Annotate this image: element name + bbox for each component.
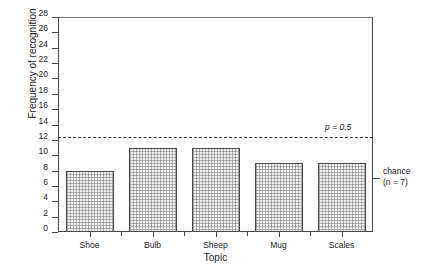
y-tick-mark — [52, 109, 58, 110]
x-tick-mark — [216, 232, 217, 237]
y-tick-label: 6 — [8, 178, 48, 187]
y-tick-label: 10 — [8, 147, 48, 156]
y-tick-mark — [52, 17, 58, 18]
y-tick-label: 22 — [8, 55, 48, 64]
x-tick-label: Bulb — [121, 240, 184, 250]
bar — [66, 171, 114, 232]
bar — [192, 148, 240, 232]
y-tick-label: 28 — [8, 9, 48, 18]
y-tick-label: 4 — [8, 193, 48, 202]
y-tick-mark — [52, 232, 58, 233]
y-tick-mark — [52, 186, 58, 187]
y-tick-mark — [52, 155, 58, 156]
y-tick-mark — [52, 94, 58, 95]
x-axis-separator-tick — [310, 232, 311, 236]
x-tick-label: Sheep — [184, 240, 247, 250]
y-tick-mark — [52, 63, 58, 64]
y-tick-label: 12 — [8, 132, 48, 141]
chance-label-line2: (n = 7) — [383, 177, 410, 188]
y-tick-mark — [52, 48, 58, 49]
y-tick-mark — [52, 32, 58, 33]
x-tick-label: Mug — [247, 240, 310, 250]
chance-label: chance (n = 7) — [383, 166, 410, 188]
y-tick-mark — [52, 201, 58, 202]
y-tick-mark — [52, 78, 58, 79]
chance-tick-mark — [373, 178, 380, 179]
y-tick-label: 20 — [8, 70, 48, 79]
x-tick-mark — [342, 232, 343, 237]
y-tick-label: 24 — [8, 40, 48, 49]
chance-label-line1: chance — [383, 166, 410, 177]
p-threshold-line — [58, 137, 373, 138]
bar-chart-figure: Frequency of recognition 024681012141618… — [0, 0, 436, 273]
x-axis-separator-tick — [121, 232, 122, 236]
y-tick-label: 14 — [8, 117, 48, 126]
x-tick-mark — [90, 232, 91, 237]
x-axis-separator-tick — [247, 232, 248, 236]
y-tick-mark — [52, 125, 58, 126]
x-tick-label: Shoe — [58, 240, 121, 250]
y-tick-mark — [52, 140, 58, 141]
y-tick-label: 16 — [8, 101, 48, 110]
bar — [318, 163, 366, 232]
x-tick-mark — [153, 232, 154, 237]
bar — [129, 148, 177, 232]
x-axis-title: Topic — [58, 252, 373, 263]
y-tick-mark — [52, 217, 58, 218]
y-tick-label: 8 — [8, 163, 48, 172]
x-tick-label: Scales — [310, 240, 373, 250]
p-threshold-label: p = 0.5 — [325, 123, 351, 132]
x-axis-separator-tick — [184, 232, 185, 236]
y-tick-label: 0 — [8, 224, 48, 233]
x-tick-mark — [279, 232, 280, 237]
y-tick-label: 26 — [8, 24, 48, 33]
y-tick-mark — [52, 171, 58, 172]
bar — [255, 163, 303, 232]
y-tick-label: 2 — [8, 209, 48, 218]
y-tick-label: 18 — [8, 86, 48, 95]
